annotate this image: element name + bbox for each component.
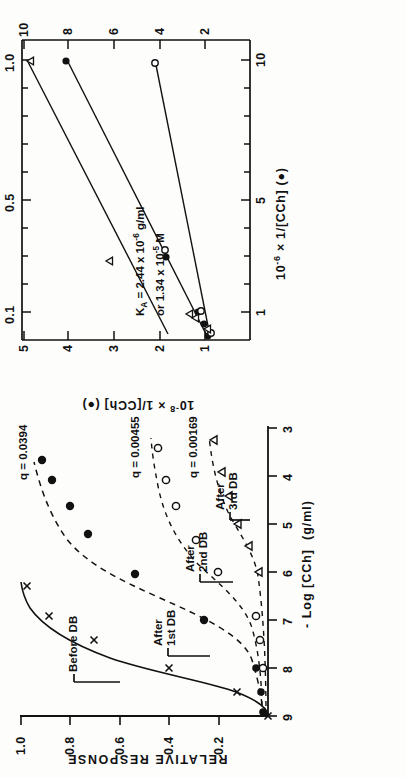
rp-top-tick-0-1: 0.1 [3, 305, 17, 324]
rp-xtick-1: 1 [254, 309, 268, 316]
rp-ytick-1: 1 [198, 345, 212, 352]
rp-ytick-5: 5 [17, 345, 31, 352]
rp-x-exp: -6 [272, 255, 282, 264]
rp-right-tick-2: 2 [198, 28, 212, 35]
ka-symbol: K [134, 308, 146, 316]
rp-x-mid: × 1/ [274, 227, 288, 255]
dose-response-canvas [0, 400, 330, 778]
rp-right-tick-4: 4 [153, 28, 167, 35]
ka-or: or 1.34 x 10 [153, 253, 165, 316]
rp-x-sym: (●) [274, 167, 288, 185]
ka-line-1: KA = 2.44 x 10-6 g/ml [132, 206, 150, 316]
lp-xtick-3: 3 [281, 426, 295, 433]
ka-unit2: M [153, 233, 165, 246]
ka-exp2: -5 [152, 246, 161, 253]
ka-annotation: KA = 2.44 x 10-6 g/ml or 1.34 x 10-5 M [132, 206, 167, 316]
rp-ytick-3: 3 [107, 345, 121, 352]
after-3rd-db-line2: 3rd DB [227, 472, 240, 510]
ka-line-2: or 1.34 x 10-5 M [152, 206, 167, 316]
lp-xtick-7: 7 [281, 618, 295, 625]
ka-exp: -6 [132, 233, 141, 240]
double-reciprocal-panel: 1 5 10 1 2 3 4 5 0.1 0.5 1.0 2 4 6 8 10 … [0, 20, 300, 392]
after-2nd-db-label: After 2nd DB [184, 532, 210, 572]
lp-xtick-8: 8 [281, 666, 295, 673]
rp-ytick-4: 4 [61, 345, 75, 352]
rp-right-tick-10: 10 [17, 22, 31, 37]
after-2nd-db-line1: After [184, 532, 197, 572]
after-2nd-db-line2: 2nd DB [197, 532, 210, 572]
lp-y-axis-title: RELATIVE RESPONSE [66, 752, 227, 766]
rp-top-tick-0-5: 0.5 [3, 193, 17, 212]
lp-xtick-4: 4 [281, 474, 295, 481]
after-1st-db-label: After 1st DB [152, 610, 178, 646]
rp-x-axis-title: 10-6 × 1/[CCh] (●) [272, 167, 288, 280]
rp-xtick-10: 10 [254, 52, 268, 67]
rp-x-lead: 10 [274, 265, 288, 280]
lp-x-axis-title: - Log [CCh] (g/ml) [300, 500, 314, 628]
after-3rd-db-label: After 3rd DB [214, 472, 240, 510]
after-1st-db-line1: After [152, 610, 165, 646]
rp-right-tick-8: 8 [61, 28, 75, 35]
lp-xtick-6: 6 [281, 570, 295, 577]
figure-page: 1 5 10 1 2 3 4 5 0.1 0.5 1.0 2 4 6 8 10 … [0, 0, 405, 778]
lp-xtick-5: 5 [281, 522, 295, 529]
rp-right-tick-6: 6 [107, 28, 121, 35]
q-value-2: q = 0.00455 [128, 416, 142, 478]
ka-val: = 2.44 x 10 [134, 241, 146, 302]
rp-xtick-5: 5 [254, 197, 268, 204]
ka-sub: A [140, 302, 149, 308]
rp-top-tick-1-0: 1.0 [3, 53, 17, 72]
lp-ytick-1-0: 1.0 [14, 736, 28, 755]
before-db-label: Before DB [66, 616, 80, 672]
after-3rd-db-line1: After [214, 472, 227, 510]
rp-ytick-2: 2 [153, 345, 167, 352]
rp-x-brack: [CCh] [274, 190, 288, 228]
lp-xtick-9: 9 [281, 714, 295, 721]
after-1st-db-line2: 1st DB [165, 610, 178, 646]
lp-x-pre: - Log [CCh] [300, 549, 314, 628]
lp-x-unit: (g/ml) [300, 500, 314, 540]
q-value-3: q = 0.00169 [186, 416, 200, 478]
q-value-1: q = 0.0394 [16, 425, 30, 480]
ka-unit: g/ml [134, 206, 146, 233]
dose-response-panel: 9 8 7 6 5 4 3 0.2 0.4 0.6 0.8 1.0 RELATI… [0, 400, 330, 778]
